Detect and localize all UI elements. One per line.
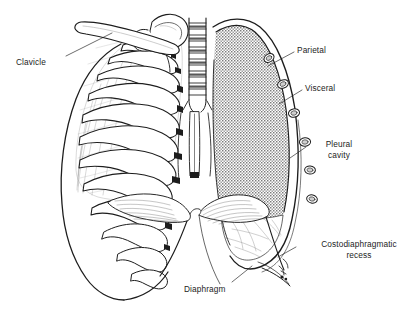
label-visceral: Visceral bbox=[305, 83, 335, 94]
anatomical-illustration: Clavicle Parietal Visceral Pleural cavit… bbox=[0, 0, 419, 315]
label-costo-recess-line2: recess bbox=[300, 250, 418, 261]
label-diaphragm-text: Diaphragm bbox=[184, 284, 225, 294]
label-diaphragm: Diaphragm bbox=[184, 284, 225, 295]
leader-diaphragm bbox=[232, 266, 252, 282]
label-clavicle: Clavicle bbox=[16, 57, 46, 68]
label-costodiaphragmatic-recess: Costodiaphragmatic recess bbox=[300, 239, 418, 260]
label-pleural-cavity: Pleural cavity bbox=[309, 139, 369, 160]
label-costo-recess-line1: Costodiaphragmatic bbox=[300, 239, 418, 250]
label-pleural-cavity-line1: Pleural bbox=[309, 139, 369, 150]
leader-clavicle bbox=[66, 33, 112, 56]
label-parietal-text: Parietal bbox=[297, 45, 326, 55]
label-parietal: Parietal bbox=[297, 45, 326, 56]
label-visceral-text: Visceral bbox=[305, 83, 335, 93]
mediastinum bbox=[178, 112, 211, 180]
label-pleural-cavity-line2: cavity bbox=[309, 150, 369, 161]
costodiaphragmatic-recess bbox=[258, 259, 290, 286]
label-clavicle-text: Clavicle bbox=[16, 57, 46, 67]
cut-ribs-left bbox=[79, 39, 183, 289]
